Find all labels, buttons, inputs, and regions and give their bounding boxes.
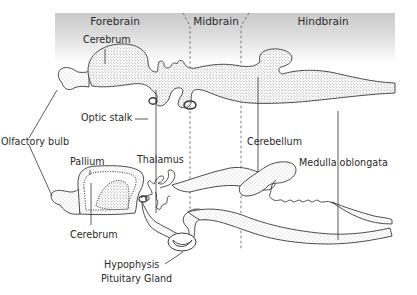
olfactory-bulb-top-shape [58, 67, 89, 89]
label-cerebrum-top: Cerebrum [83, 34, 131, 45]
thalamus-squiggle-right [155, 192, 170, 209]
hypophysis-ring [168, 233, 196, 251]
label-hypophysis: Hypophysis [104, 259, 159, 270]
label-thalamus: Thalamus [137, 154, 184, 165]
region-divider-midbrain-right [241, 13, 249, 250]
diagram-drawing [0, 0, 417, 295]
label-pallium: Pallium [70, 156, 105, 167]
brain-body-top-shape [88, 44, 395, 108]
label-pituitary-gland: Pituitary Gland [101, 273, 172, 284]
medulla-roof-wave [270, 180, 392, 220]
medulla-roof-strip [332, 202, 392, 224]
label-olfactory-bulb: Olfactory bulb [1, 136, 69, 147]
label-medulla-oblongata: Medulla oblongata [299, 157, 388, 168]
brain-diagram: Forebrain Midbrain Hindbrain [0, 0, 417, 295]
label-cerebellum: Cerebellum [247, 136, 302, 147]
leader-hypophysis [165, 252, 183, 264]
label-optic-stalk: Optic stalk [81, 112, 132, 123]
cerebellum-section [239, 162, 296, 196]
brain-side-view [58, 44, 395, 109]
olfactory-bulb-bottom-shape [51, 188, 80, 214]
label-cerebrum-bottom: Cerebrum [70, 229, 118, 240]
